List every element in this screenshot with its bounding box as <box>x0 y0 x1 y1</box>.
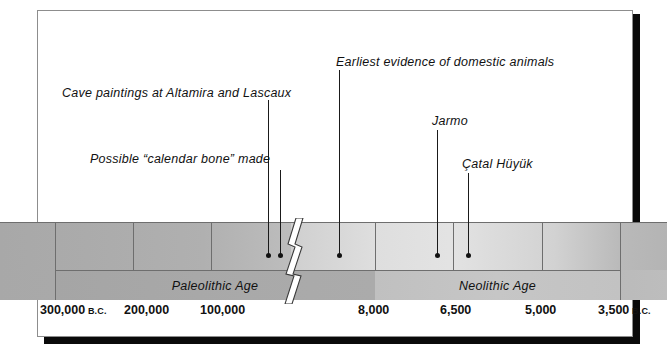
axis-tick-suffix-3500: B.C. <box>629 306 651 316</box>
event-dot-domestic-animals <box>337 253 342 258</box>
zigzag-break-icon <box>282 218 308 304</box>
axis-tick-label-5000: 5,000 <box>525 303 556 317</box>
axis-tick-value-100000: 100,000 <box>200 303 245 317</box>
callout-catal-huyuk: Çatal Hüyük <box>462 157 533 171</box>
era-paleolithic-label: Paleolithic Age <box>172 279 259 293</box>
band-segment-neolithic <box>291 222 667 270</box>
era-paleolithic: Paleolithic Age <box>55 270 375 300</box>
axis-tick-value-6500: 6,500 <box>440 303 471 317</box>
timeline-band: Paleolithic Age Neolithic Age <box>0 222 667 300</box>
axis-tick-value-200000: 200,000 <box>124 303 169 317</box>
leader-line-jarmo <box>437 130 438 254</box>
event-dot-calendar-bone <box>278 253 283 258</box>
axis-tick-label-8000: 8,000 <box>358 303 389 317</box>
timeline-figure: Paleolithic Age Neolithic Age Cave paint… <box>0 0 667 362</box>
callout-domestic-animals: Earliest evidence of domestic animals <box>336 55 554 69</box>
callout-jarmo: Jarmo <box>432 114 468 128</box>
event-dot-jarmo <box>435 253 440 258</box>
callout-calendar-bone: Possible “calendar bone” made <box>90 152 270 166</box>
axis-tick-label-6500: 6,500 <box>440 303 471 317</box>
card-shadow-bottom <box>44 337 640 344</box>
axis-tick-value-3500: 3,500 <box>598 303 629 317</box>
band-divider-200000 <box>133 222 134 270</box>
band-divider-3500 <box>620 222 621 270</box>
band-divider-300000 <box>55 222 56 270</box>
era-divider-right <box>620 270 621 300</box>
leader-line-calendar-bone <box>280 170 281 254</box>
timeline-band-upper <box>0 222 667 270</box>
band-segment-paleolithic <box>0 222 291 270</box>
event-dot-catal-huyuk <box>466 253 471 258</box>
axis-tick-value-5000: 5,000 <box>525 303 556 317</box>
axis-tick-label-3500: 3,500 B.C. <box>598 303 651 317</box>
axis-tick-label-200000: 200,000 <box>124 303 169 317</box>
era-divider-left <box>55 270 56 300</box>
band-divider-100000 <box>211 222 212 270</box>
axis-tick-value-8000: 8,000 <box>358 303 389 317</box>
band-divider-5000 <box>542 222 543 270</box>
era-neolithic: Neolithic Age <box>375 270 620 300</box>
band-divider-6500 <box>453 222 454 270</box>
axis-tick-suffix-300000: B.C. <box>85 306 107 316</box>
era-neolithic-label: Neolithic Age <box>459 279 536 293</box>
timeline-band-lower: Paleolithic Age Neolithic Age <box>0 270 667 300</box>
leader-line-domestic-animals <box>339 70 340 254</box>
callout-cave-paintings: Cave paintings at Altamira and Lascaux <box>62 86 291 100</box>
axis-tick-label-100000: 100,000 <box>200 303 245 317</box>
axis-tick-value-300000: 300,000 <box>40 303 85 317</box>
leader-line-cave-paintings <box>268 100 269 254</box>
event-dot-cave-paintings <box>266 253 271 258</box>
axis-tick-label-300000: 300,000 B.C. <box>40 303 107 317</box>
leader-line-catal-huyuk <box>468 173 469 254</box>
band-divider-8000 <box>375 222 376 270</box>
